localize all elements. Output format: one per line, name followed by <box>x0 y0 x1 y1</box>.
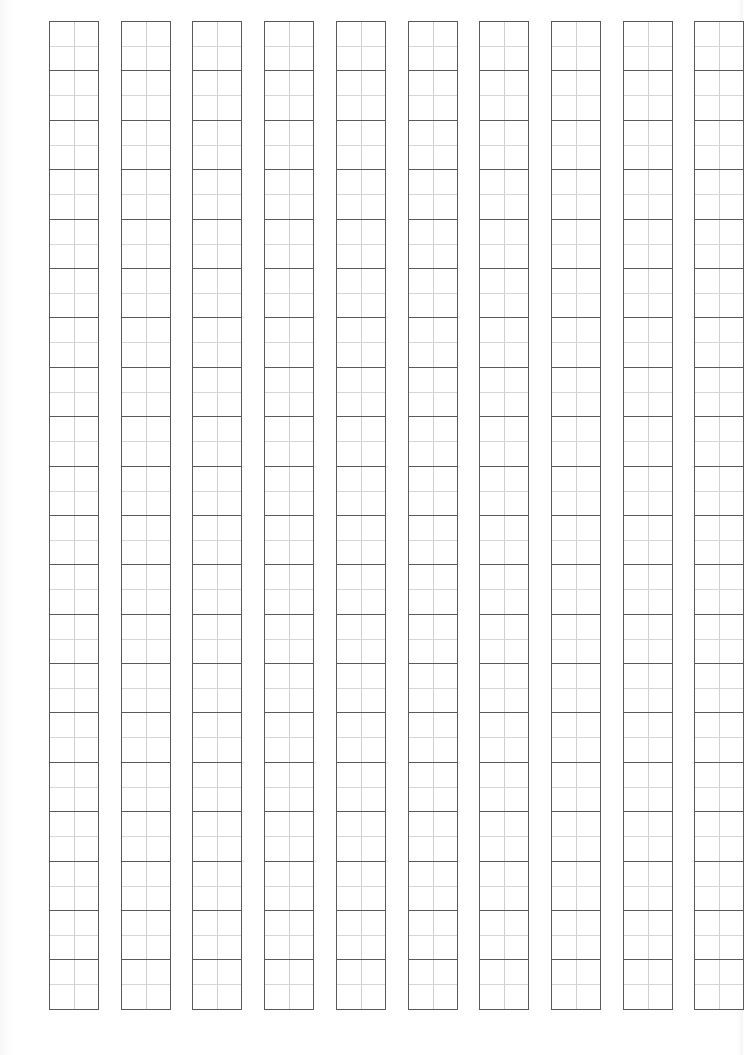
horizontal-guide-line <box>122 688 170 689</box>
grid-cell <box>624 763 672 812</box>
grid-cell <box>409 467 457 516</box>
grid-cell <box>122 862 170 911</box>
grid-cell <box>695 763 743 812</box>
grid-cell <box>695 664 743 713</box>
grid-column <box>408 21 458 1010</box>
grid-cell <box>50 911 98 960</box>
horizontal-guide-line <box>50 95 98 96</box>
horizontal-guide-line <box>480 836 528 837</box>
horizontal-guide-line <box>695 589 743 590</box>
horizontal-guide-line <box>409 540 457 541</box>
grid-cell <box>409 71 457 120</box>
horizontal-guide-line <box>337 984 385 985</box>
horizontal-guide-line <box>122 95 170 96</box>
grid-cell <box>122 664 170 713</box>
grid-cell <box>337 812 385 861</box>
grid-cell <box>122 22 170 71</box>
horizontal-guide-line <box>337 194 385 195</box>
horizontal-guide-line <box>552 194 600 195</box>
grid-cell <box>265 467 313 516</box>
grid-cell <box>265 664 313 713</box>
grid-cell <box>337 417 385 466</box>
horizontal-guide-line <box>337 46 385 47</box>
horizontal-guide-line <box>695 737 743 738</box>
grid-cell <box>122 516 170 565</box>
horizontal-guide-line <box>695 194 743 195</box>
horizontal-guide-line <box>337 95 385 96</box>
horizontal-guide-line <box>480 244 528 245</box>
horizontal-guide-line <box>624 293 672 294</box>
grid-cell <box>695 467 743 516</box>
horizontal-guide-line <box>480 589 528 590</box>
grid-cell <box>624 269 672 318</box>
grid-cell <box>409 664 457 713</box>
grid-cell <box>50 516 98 565</box>
horizontal-guide-line <box>552 145 600 146</box>
grid-cell <box>480 368 528 417</box>
grid-cell <box>122 417 170 466</box>
grid-cell <box>480 664 528 713</box>
horizontal-guide-line <box>265 46 313 47</box>
grid-cell <box>480 220 528 269</box>
horizontal-guide-line <box>193 787 241 788</box>
horizontal-guide-line <box>695 639 743 640</box>
grid-cell <box>122 121 170 170</box>
horizontal-guide-line <box>624 886 672 887</box>
grid-cell <box>50 121 98 170</box>
grid-cell <box>337 121 385 170</box>
grid-cell <box>193 960 241 1008</box>
grid-cell <box>409 763 457 812</box>
grid-cell <box>624 22 672 71</box>
horizontal-guide-line <box>337 540 385 541</box>
horizontal-guide-line <box>624 46 672 47</box>
horizontal-guide-line <box>552 935 600 936</box>
horizontal-guide-line <box>193 491 241 492</box>
grid-cell <box>193 565 241 614</box>
horizontal-guide-line <box>50 342 98 343</box>
horizontal-guide-line <box>193 46 241 47</box>
grid-column <box>336 21 386 1010</box>
grid-column <box>479 21 529 1010</box>
horizontal-guide-line <box>265 293 313 294</box>
grid-cell <box>409 516 457 565</box>
grid-cell <box>337 22 385 71</box>
horizontal-guide-line <box>265 589 313 590</box>
horizontal-guide-line <box>480 95 528 96</box>
grid-cell <box>695 713 743 762</box>
grid-cell <box>695 220 743 269</box>
horizontal-guide-line <box>695 935 743 936</box>
grid-cell <box>695 615 743 664</box>
grid-cell <box>552 71 600 120</box>
horizontal-guide-line <box>265 935 313 936</box>
grid-cell <box>409 615 457 664</box>
grid-cell <box>695 368 743 417</box>
grid-cell <box>552 862 600 911</box>
horizontal-guide-line <box>409 737 457 738</box>
grid-cell <box>265 22 313 71</box>
horizontal-guide-line <box>480 540 528 541</box>
horizontal-guide-line <box>193 639 241 640</box>
grid-cell <box>50 71 98 120</box>
horizontal-guide-line <box>480 688 528 689</box>
grid-cell <box>480 121 528 170</box>
grid-cell <box>193 318 241 367</box>
grid-cell <box>337 269 385 318</box>
horizontal-guide-line <box>122 886 170 887</box>
horizontal-guide-line <box>122 935 170 936</box>
horizontal-guide-line <box>193 293 241 294</box>
grid-cell <box>409 911 457 960</box>
grid-cell <box>122 467 170 516</box>
horizontal-guide-line <box>409 194 457 195</box>
horizontal-guide-line <box>480 392 528 393</box>
grid-cell <box>552 664 600 713</box>
horizontal-guide-line <box>50 392 98 393</box>
horizontal-guide-line <box>552 540 600 541</box>
grid-cell <box>480 417 528 466</box>
grid-cell <box>552 960 600 1008</box>
horizontal-guide-line <box>552 886 600 887</box>
horizontal-guide-line <box>552 293 600 294</box>
grid-cell <box>122 911 170 960</box>
grid-cell <box>409 960 457 1008</box>
grid-cell <box>552 170 600 219</box>
horizontal-guide-line <box>50 935 98 936</box>
